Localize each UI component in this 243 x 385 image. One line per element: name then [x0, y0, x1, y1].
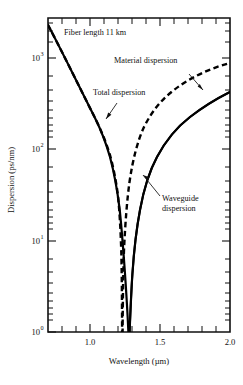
y-axis-title: Dispersion (ps/nm): [6, 147, 16, 213]
x-axis-ticks-bottom: [62, 324, 216, 332]
plot-frame: [48, 18, 230, 332]
total-leader-arrowhead: [106, 113, 111, 119]
curve-material-dispersion: [48, 25, 230, 332]
y-axis-ticks-right: [222, 23, 230, 320]
curve-total-dispersion: [48, 25, 230, 332]
y-tick-label-10: 10 1: [31, 233, 43, 246]
x-tick-labels: 1.0 1.5 2.0: [85, 337, 236, 347]
y-tick-label-1000: 10 3: [31, 50, 43, 63]
x-tick-label-3: 2.0: [225, 337, 236, 347]
y-tick-exponent: 0: [41, 324, 44, 331]
x-axis-ticks-top: [62, 18, 216, 26]
annotation-waveguide-dispersion-line2: dispersion: [162, 204, 196, 213]
y-tick-mantissa: 10: [31, 53, 40, 63]
y-tick-label-1: 10 0: [31, 324, 43, 337]
dispersion-chart-figure: 1.0 1.5 2.0 10 3 10 2 10 1 10 0 Wavel: [0, 0, 243, 385]
x-tick-label-1: 1.0: [85, 337, 96, 347]
y-tick-labels: 10 3 10 2 10 1 10 0: [31, 50, 43, 337]
annotation-total-dispersion: Total dispersion: [93, 88, 145, 97]
y-tick-exponent: 3: [41, 50, 44, 57]
annotation-fiber-length: Fiber length 11 km: [64, 28, 127, 37]
chart-svg: 1.0 1.5 2.0 10 3 10 2 10 1 10 0 Wavel: [0, 0, 243, 385]
x-axis-title: Wavelength (µm): [109, 356, 169, 366]
y-tick-mantissa: 10: [31, 144, 40, 154]
y-tick-exponent: 1: [41, 233, 44, 240]
x-tick-label-2: 1.5: [155, 337, 166, 347]
annotation-material-dispersion: Material dispersion: [114, 56, 177, 65]
y-tick-exponent: 2: [41, 141, 44, 148]
y-tick-mantissa: 10: [31, 236, 40, 246]
y-tick-label-100: 10 2: [31, 141, 43, 154]
y-tick-mantissa: 10: [31, 327, 40, 337]
annotation-waveguide-dispersion-line1: Waveguide: [162, 194, 199, 203]
data-curves: [48, 25, 230, 332]
y-axis-ticks-left: [48, 23, 56, 332]
